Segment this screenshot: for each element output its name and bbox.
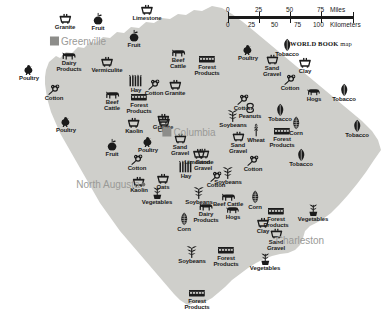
chicken-icon <box>19 64 39 75</box>
resource-symbol[interactable]: Fruit <box>128 30 141 48</box>
resource-label: Sand Gravel <box>229 142 247 155</box>
city-marker-icon <box>50 37 59 46</box>
resource-label: Tobacco <box>332 96 356 102</box>
cotton-icon <box>45 84 64 95</box>
minecart-icon <box>257 218 270 228</box>
resource-symbol[interactable]: Cotton <box>244 155 263 172</box>
chicken-icon <box>56 116 76 127</box>
resource-label: Hogs <box>226 214 241 220</box>
city-north-augusta[interactable]: North Augusta <box>76 179 145 190</box>
resource-symbol[interactable]: Cotton <box>234 94 253 111</box>
resource-symbol[interactable]: Dairy Products <box>56 51 81 73</box>
scale-km-unit: Kilometers <box>330 21 361 28</box>
tobacco-icon <box>289 148 313 161</box>
resource-symbol[interactable]: Sand Gravel <box>194 149 212 172</box>
resource-symbol[interactable]: Sand Gravel <box>263 55 281 78</box>
resource-symbol[interactable]: Soybeans <box>178 245 206 264</box>
city-label: Charleston <box>276 235 324 246</box>
resource-label: Cotton <box>45 95 64 101</box>
scale-miles-tick-3: 75 <box>317 6 324 13</box>
scale-tick-2 <box>290 12 291 23</box>
city-columbia[interactable]: Columbia <box>162 127 215 138</box>
city-marker-icon <box>142 182 146 186</box>
tobacco-icon <box>345 119 369 132</box>
resource-label: Fruit <box>128 42 141 48</box>
resource-symbol[interactable]: Vermiculite <box>92 57 123 73</box>
resource-symbol[interactable]: Vegetables <box>298 203 328 222</box>
resource-symbol[interactable]: Tobacco <box>345 119 369 138</box>
resource-symbol[interactable]: Forest Products <box>194 56 219 77</box>
publisher-credit: WORLD BOOK map <box>290 40 352 47</box>
resource-symbol[interactable]: Dairy Products <box>193 202 218 224</box>
resource-symbol[interactable]: Fruit <box>106 139 119 157</box>
resource-label: Fruit <box>92 25 105 31</box>
resource-symbol[interactable]: Wheat <box>247 123 265 143</box>
resource-symbol[interactable]: Forest Products <box>213 247 238 268</box>
resource-symbol[interactable]: Forest Products <box>269 128 294 149</box>
resource-label: Poultry <box>19 75 39 81</box>
resource-symbol[interactable]: Hay <box>129 75 144 93</box>
soybean-icon <box>178 245 206 258</box>
scale-km-tick-0: 0 <box>226 21 230 28</box>
resource-symbol[interactable]: Poultry <box>238 44 258 61</box>
resource-symbol[interactable]: Vegetables <box>142 186 172 205</box>
soybean-icon <box>185 186 213 199</box>
resource-symbol[interactable]: Hogs <box>307 88 322 102</box>
cow-icon <box>213 192 243 201</box>
resource-symbol[interactable]: Limestone <box>132 5 161 21</box>
city-charleston[interactable]: Charleston <box>276 235 324 246</box>
resource-label: Vegetables <box>142 199 172 205</box>
resource-symbol[interactable]: Beef Cattle <box>170 48 186 70</box>
resource-symbol[interactable]: Granite <box>165 80 185 96</box>
resource-symbol[interactable]: Hogs <box>226 206 241 220</box>
vegetable-icon <box>250 252 280 265</box>
cotton-icon <box>128 154 147 165</box>
minecart-icon <box>165 80 185 90</box>
resource-label: Granite <box>165 90 185 96</box>
resource-symbol[interactable]: Cotton <box>128 154 147 171</box>
resource-symbol[interactable]: Forest Products <box>126 94 151 115</box>
resource-label: Soybeans <box>178 258 206 264</box>
chicken-icon <box>238 44 258 55</box>
fruit-icon <box>128 30 141 42</box>
resource-symbol[interactable]: Fruit <box>92 13 105 31</box>
corn-icon <box>248 190 262 204</box>
resource-symbol[interactable]: Granite <box>55 14 75 30</box>
resource-label: Beef Cattle <box>104 99 120 112</box>
resource-symbol[interactable]: Poultry <box>19 64 39 81</box>
resource-label: Poultry <box>138 147 158 153</box>
resource-symbol[interactable]: Tobacco <box>332 83 356 102</box>
hog-icon <box>307 88 322 96</box>
wheat-icon <box>247 123 265 137</box>
scale-bar-line <box>228 16 354 19</box>
resource-symbol[interactable]: Cotton <box>45 84 64 101</box>
resource-label: Cotton <box>281 85 300 91</box>
resource-symbol[interactable]: Kaolin <box>125 118 143 134</box>
resource-symbol[interactable]: Forest Products <box>184 290 209 311</box>
resource-symbol[interactable]: Clay <box>299 58 312 74</box>
resource-symbol[interactable]: Sand Gravel <box>229 132 247 155</box>
resource-label: Poultry <box>56 127 76 133</box>
city-greenville[interactable]: Greenville <box>50 36 106 47</box>
resource-symbol[interactable]: Beef Cattle <box>104 90 120 112</box>
oats-icon <box>157 174 170 184</box>
resource-label: Sand Gravel <box>194 159 212 172</box>
resource-symbol[interactable]: Corn <box>248 190 262 210</box>
resource-symbol[interactable]: Corn <box>177 212 191 232</box>
resource-symbol[interactable]: Vegetables <box>250 252 280 271</box>
resource-symbol[interactable]: Cotton <box>281 74 300 91</box>
resource-label: Vegetables <box>298 216 328 222</box>
resource-label: Limestone <box>132 15 161 21</box>
hay-icon <box>129 75 144 87</box>
tobacco-icon <box>275 38 299 51</box>
resource-label: Forest Products <box>269 136 294 149</box>
resource-label: Tobacco <box>345 132 369 138</box>
resource-symbol[interactable]: Poultry <box>138 136 158 153</box>
minecart-icon <box>229 132 247 142</box>
scale-miles-tick-0: 0 <box>226 6 230 13</box>
resource-symbol[interactable]: Tobacco <box>289 148 313 167</box>
scale-miles-tick-2: 50 <box>286 6 293 13</box>
resource-symbol[interactable]: Poultry <box>56 116 76 133</box>
minecart-icon <box>299 58 312 68</box>
resource-symbol[interactable]: Hay <box>179 161 194 179</box>
